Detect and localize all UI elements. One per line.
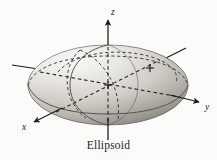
ellipsoid-drawing: z y x (0, 0, 217, 160)
z-axis-label: z (110, 7, 115, 17)
figure-caption: Ellipsoid (0, 139, 217, 151)
ellipsoid-figure: z y x Ellipsoid (0, 0, 217, 160)
y-axis-label: y (204, 102, 210, 112)
x-axis-label: x (21, 122, 27, 132)
